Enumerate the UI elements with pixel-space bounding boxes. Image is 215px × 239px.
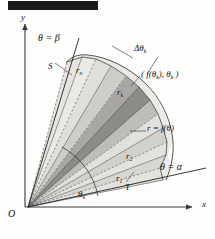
theta-alpha-label: θ = α — [160, 162, 182, 172]
radius-rn-label: rn — [76, 66, 82, 75]
radius-rk-label: rk — [117, 88, 123, 97]
y-axis-label: y — [21, 13, 25, 22]
radius-r1-label: r1 — [116, 174, 122, 183]
figure-canvas — [0, 0, 215, 239]
curve-equation-label: r = f(θ) — [147, 124, 174, 133]
origin-label: O — [8, 209, 15, 219]
delta-theta-label: Δθk — [134, 44, 146, 53]
theta-beta-label: θ = β — [38, 33, 60, 43]
radius-r2-label: r2 — [126, 152, 132, 161]
theta-k-arc-label: θk — [78, 190, 85, 199]
sample-point-label: ( f(θk), θk ) — [141, 70, 178, 79]
polar-sector-figure: y x O θ = β θ = α S T rn rk r2 r1 Δθk θk… — [0, 0, 215, 239]
point-s-label: S — [48, 62, 53, 71]
x-axis-label: x — [202, 200, 206, 209]
point-t-label: T — [125, 183, 130, 192]
